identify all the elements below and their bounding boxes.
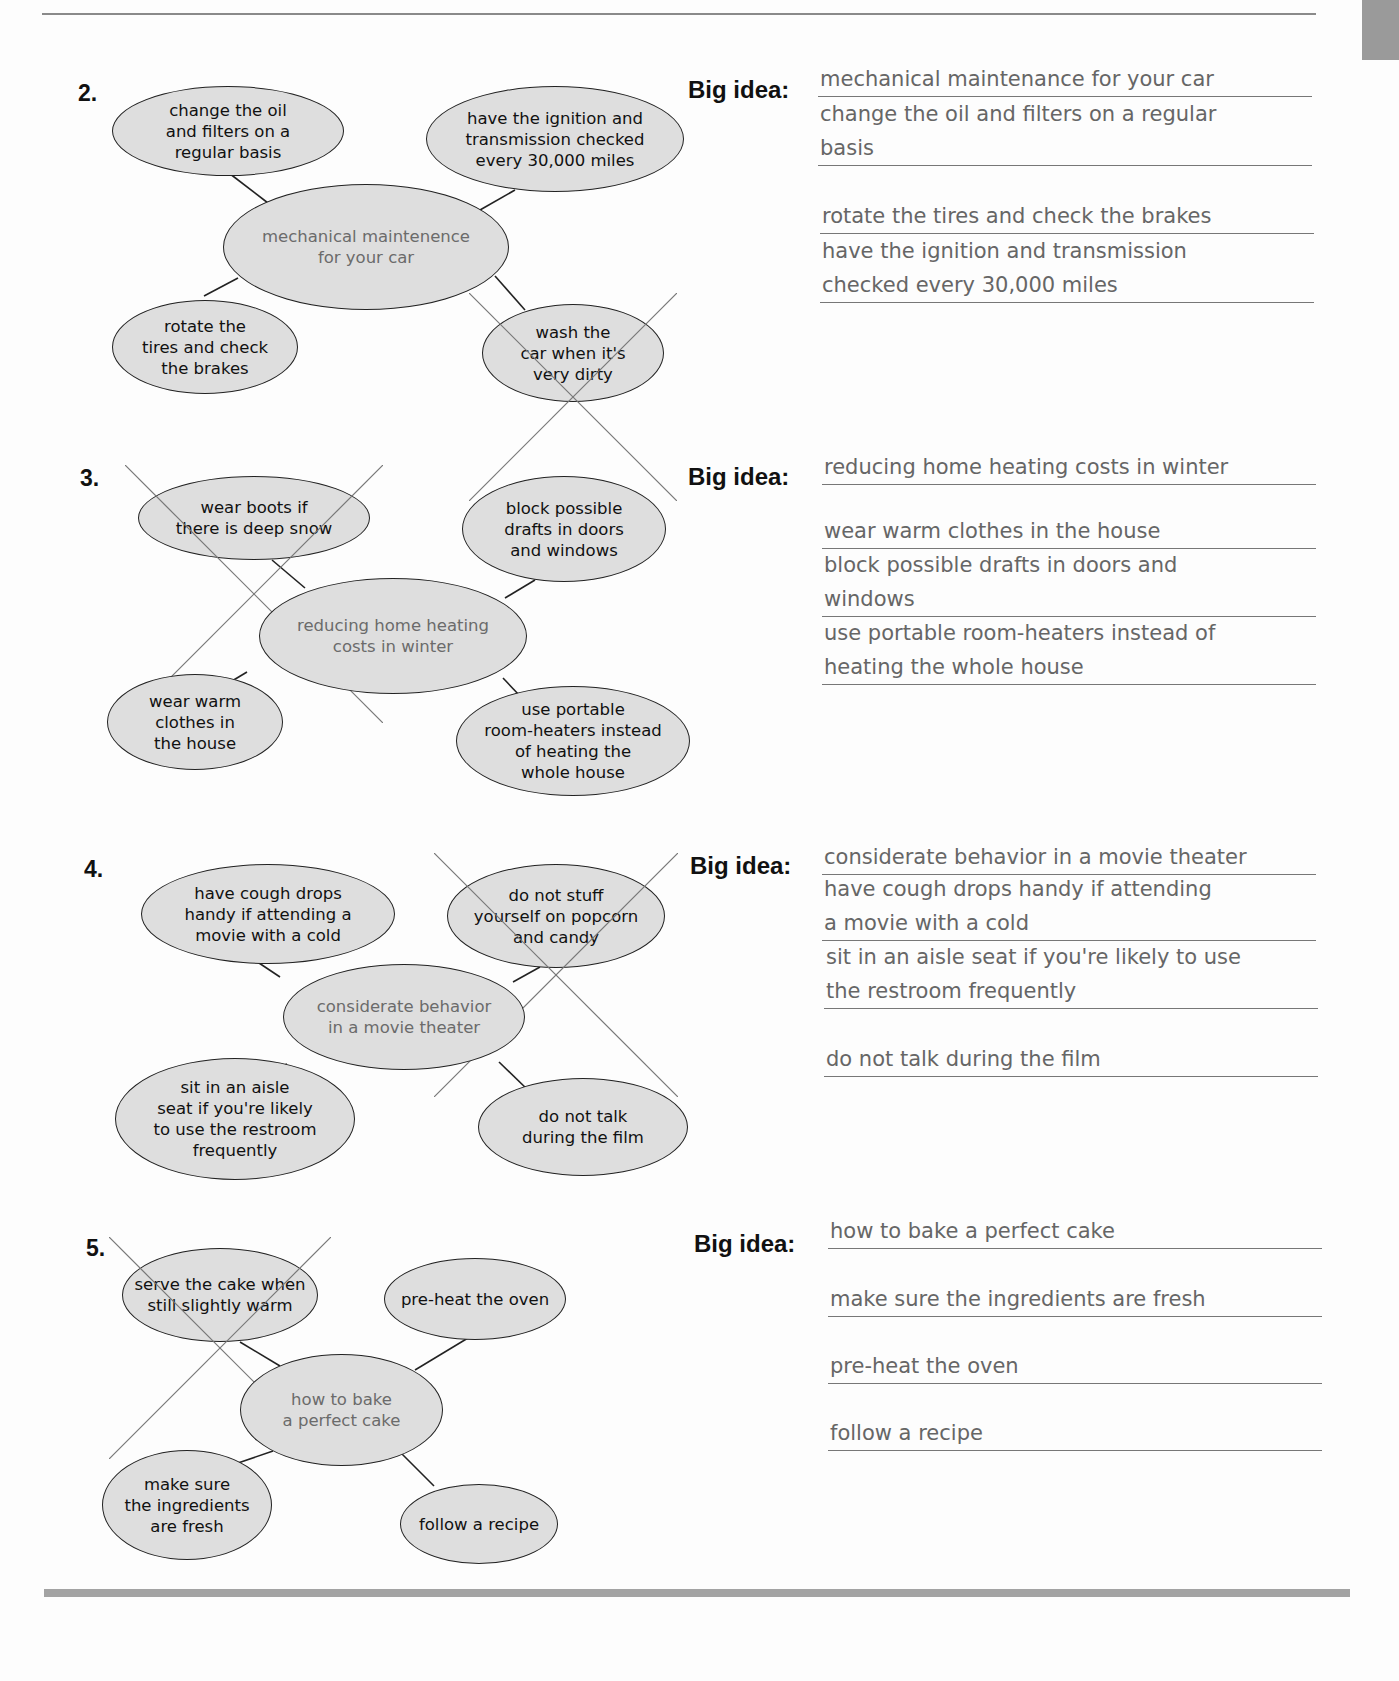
supporting-idea-bubble: pre-heat the oven — [384, 1258, 566, 1340]
supporting-idea-bubble-crossed-out: serve the cake when still slightly warm — [122, 1248, 318, 1342]
main-idea-bubble: reducing home heating costs in winter — [259, 578, 527, 694]
supporting-idea-bubble: change the oil and filters on a regular … — [112, 86, 344, 176]
main-idea-bubble: mechanical maintenence for your car — [223, 184, 509, 310]
big-idea-label: Big idea: — [694, 1230, 795, 1258]
detail-answer: wear warm clothes in the house — [822, 514, 1316, 549]
exercise-number: 2. — [78, 80, 97, 107]
supporting-idea-bubble: wear warm clothes in the house — [107, 674, 283, 770]
main-idea-bubble: considerate behavior in a movie theater — [283, 964, 525, 1070]
big-idea-answer: reducing home heating costs in winter — [822, 450, 1316, 485]
exercise-number: 3. — [80, 465, 99, 492]
supporting-idea-bubble: rotate the tires and check the brakes — [112, 300, 298, 394]
detail-answer: pre-heat the oven — [828, 1349, 1322, 1384]
supporting-idea-bubble-crossed-out: wear boots if there is deep snow — [138, 476, 370, 560]
detail-answer: have cough drops handy if attending a mo… — [822, 872, 1316, 941]
supporting-idea-bubble: block possible drafts in doors and windo… — [462, 476, 666, 582]
exercise-number: 4. — [84, 856, 103, 883]
supporting-idea-bubble-crossed-out: do not stuff yourself on popcorn and can… — [447, 864, 665, 968]
supporting-idea-bubble: have the ignition and transmission check… — [426, 86, 684, 192]
detail-answer: sit in an aisle seat if you're likely to… — [824, 940, 1318, 1009]
top-rule — [42, 13, 1316, 15]
exercise-number: 5. — [86, 1235, 105, 1262]
page-tab-marker — [1362, 0, 1399, 60]
big-idea-label: Big idea: — [688, 463, 789, 491]
big-idea-label: Big idea: — [690, 852, 791, 880]
supporting-idea-bubble: have cough drops handy if attending a mo… — [141, 864, 395, 964]
supporting-idea-bubble: use portable room-heaters instead of hea… — [456, 686, 690, 796]
big-idea-answer: mechanical maintenance for your car — [818, 62, 1312, 97]
detail-answer: use portable room-heaters instead of hea… — [822, 616, 1316, 685]
supporting-idea-bubble: follow a recipe — [400, 1484, 558, 1564]
supporting-idea-bubble: sit in an aisle seat if you're likely to… — [115, 1058, 355, 1180]
detail-answer: do not talk during the film — [824, 1042, 1318, 1077]
detail-answer: make sure the ingredients are fresh — [828, 1282, 1322, 1317]
detail-answer: block possible drafts in doors and windo… — [822, 548, 1316, 617]
supporting-idea-bubble: do not talk during the film — [478, 1078, 688, 1176]
supporting-idea-bubble-crossed-out: wash the car when it's very dirty — [482, 304, 664, 402]
main-idea-bubble: how to bake a perfect cake — [240, 1354, 443, 1466]
detail-answer: change the oil and filters on a regular … — [818, 97, 1312, 166]
big-idea-answer: how to bake a perfect cake — [828, 1214, 1322, 1249]
supporting-idea-bubble: make sure the ingredients are fresh — [102, 1450, 272, 1560]
detail-answer: follow a recipe — [828, 1416, 1322, 1451]
bottom-rule — [44, 1589, 1350, 1597]
big-idea-label: Big idea: — [688, 76, 789, 104]
big-idea-answer: considerate behavior in a movie theater — [822, 840, 1316, 875]
detail-answer: have the ignition and transmission check… — [820, 234, 1314, 303]
detail-answer: rotate the tires and check the brakes — [820, 199, 1314, 234]
